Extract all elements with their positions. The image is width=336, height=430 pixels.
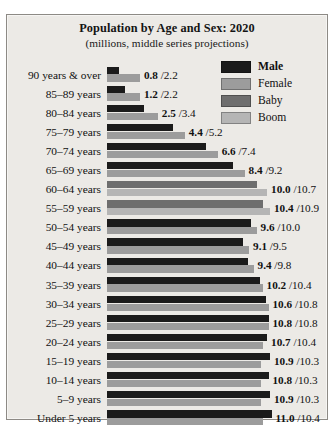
age-group-label: Under 5 years: [7, 409, 105, 428]
bar-female: [107, 246, 249, 253]
bar-female: [107, 323, 269, 330]
bar-value-label: 1.2 /2.2: [140, 88, 178, 100]
bar-male: [107, 86, 125, 93]
chart-row: 5–9 years10.9 /10.3: [7, 390, 327, 409]
bar-pair: 2.5 /3.4: [107, 103, 327, 122]
bar-female: [107, 113, 158, 120]
bar-value-label: 10.4 /10.9: [270, 202, 319, 214]
bar-pair: 10.4 /10.9: [107, 199, 327, 218]
age-group-label: 85–89 years: [7, 84, 105, 103]
bar-female: [107, 132, 185, 139]
bar-value-label: 9.4 /9.8: [254, 259, 292, 271]
chart-row: 80–84 years2.5 /3.4: [7, 103, 327, 122]
bar-male: [107, 258, 248, 265]
bar-female: [107, 151, 218, 158]
bar-female: [107, 361, 261, 368]
title-block: Population by Age and Sex: 2020 (million…: [7, 15, 327, 50]
bar-pair: 10.7 /10.4: [107, 332, 327, 351]
bar-female: [107, 265, 254, 272]
age-group-label: 20–24 years: [7, 332, 105, 351]
bar-value-label: 10.8 /10.8: [269, 317, 318, 329]
bar-pair: 9.1 /9.5: [107, 237, 327, 256]
chart-row: 10–14 years10.8 /10.3: [7, 371, 327, 390]
bar-male: [107, 181, 257, 188]
chart-row: 25–29 years10.8 /10.8: [7, 313, 327, 332]
bar-pair: 9.6 /10.0: [107, 218, 327, 237]
bar-value-label: 0.8 /2.2: [140, 69, 178, 81]
age-group-label: 40–44 years: [7, 256, 105, 275]
chart-row: Under 5 years11.0 /10.4: [7, 409, 327, 428]
age-group-label: 5–9 years: [7, 390, 105, 409]
chart-subtitle: (millions, middle series projections): [7, 37, 327, 50]
bar-female: [107, 418, 263, 425]
bar-female: [107, 304, 269, 311]
chart-row: 20–24 years10.7 /10.4: [7, 332, 327, 351]
bar-female: [107, 284, 263, 291]
bar-value-label: 8.4 /9.2: [245, 164, 283, 176]
chart-row: 70–74 years6.6 /7.4: [7, 141, 327, 160]
age-group-label: 80–84 years: [7, 103, 105, 122]
chart-figure: Population by Age and Sex: 2020 (million…: [6, 14, 328, 420]
age-group-label: 30–34 years: [7, 294, 105, 313]
bar-female: [107, 380, 261, 387]
age-group-label: 25–29 years: [7, 313, 105, 332]
bar-male: [107, 353, 270, 360]
bar-value-label: 10.8 /10.3: [269, 374, 318, 386]
bar-female: [107, 208, 270, 215]
bar-pair: 10.6 /10.8: [107, 294, 327, 313]
bar-value-label: 11.0 /10.4: [272, 412, 320, 424]
age-group-label: 90 years & over: [7, 65, 105, 84]
chart-row: 75–79 years4.4 /5.2: [7, 122, 327, 141]
bar-pair: 10.2 /10.4: [107, 275, 327, 294]
bar-value-label: 10.9 /10.3: [270, 355, 319, 367]
age-group-label: 60–64 years: [7, 180, 105, 199]
chart-row: 65–69 years8.4 /9.2: [7, 160, 327, 179]
bar-female: [107, 189, 267, 196]
bar-female: [107, 227, 257, 234]
bar-male: [107, 334, 267, 341]
bar-pair: 10.8 /10.3: [107, 371, 327, 390]
bar-pair: 0.8 /2.2: [107, 65, 327, 84]
chart-row: 15–19 years10.9 /10.3: [7, 351, 327, 370]
bar-female: [107, 93, 140, 100]
age-group-label: 55–59 years: [7, 199, 105, 218]
bar-male: [107, 105, 144, 112]
bar-value-label: 9.1 /9.5: [249, 240, 287, 252]
bar-value-label: 10.2 /10.4: [263, 279, 312, 291]
bar-pair: 10.9 /10.3: [107, 390, 327, 409]
chart-row: 60–64 years10.0 /10.7: [7, 180, 327, 199]
bar-male: [107, 372, 269, 379]
age-group-label: 45–49 years: [7, 237, 105, 256]
bar-female: [107, 342, 263, 349]
bar-value-label: 2.5 /3.4: [158, 107, 196, 119]
chart-row: 55–59 years10.4 /10.9: [7, 199, 327, 218]
chart-row: 50–54 years9.6 /10.0: [7, 218, 327, 237]
chart-plot-area: 90 years & over0.8 /2.285–89 years1.2 /2…: [7, 65, 327, 419]
bar-value-label: 10.9 /10.3: [270, 393, 319, 405]
bar-male: [107, 219, 251, 226]
bar-value-label: 4.4 /5.2: [185, 126, 223, 138]
bar-male: [107, 391, 270, 398]
bar-female: [107, 399, 261, 406]
bar-female: [107, 74, 140, 81]
bar-male: [107, 238, 243, 245]
bar-pair: 6.6 /7.4: [107, 141, 327, 160]
bar-value-label: 9.6 /10.0: [257, 221, 300, 233]
bar-value-label: 10.0 /10.7: [267, 183, 316, 195]
bar-pair: 4.4 /5.2: [107, 122, 327, 141]
bar-male: [107, 67, 119, 74]
age-group-label: 75–79 years: [7, 122, 105, 141]
bar-male: [107, 143, 206, 150]
age-group-label: 10–14 years: [7, 371, 105, 390]
page-title: Population by Age and Sex: 2020: [7, 21, 327, 36]
bar-pair: 10.8 /10.8: [107, 313, 327, 332]
age-group-label: 35–39 years: [7, 275, 105, 294]
age-group-label: 15–19 years: [7, 351, 105, 370]
bar-male: [107, 315, 269, 322]
bar-value-label: 10.6 /10.8: [269, 298, 318, 310]
bar-value-label: 6.6 /7.4: [218, 145, 256, 157]
bar-value-label: 10.7 /10.4: [267, 336, 316, 348]
bar-pair: 10.9 /10.3: [107, 351, 327, 370]
bar-pair: 10.0 /10.7: [107, 180, 327, 199]
bar-male: [107, 162, 233, 169]
